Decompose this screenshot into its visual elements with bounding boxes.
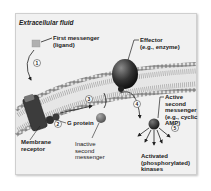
active-leader [158,97,164,118]
step1-arrow [27,50,34,80]
svg-text:2: 2 [57,121,60,127]
ligand-shape [32,40,40,47]
label-membrane-receptor: Membrane receptor [21,139,51,152]
effector-leader [128,40,139,60]
diagram-title: Extracellular fluid [19,19,74,26]
label-active-second-messenger: Active second messenger (e.g., cyclic AM… [165,94,197,127]
label-first-messenger: First messenger (ligand) [53,35,99,48]
ligand-leader [41,38,52,42]
inactive-second-messenger-shape [96,113,106,123]
label-effector: Effector (e.g., enzyme) [140,37,180,50]
svg-text:1: 1 [36,60,39,66]
active-second-messenger-shape [149,119,160,130]
svg-text:4: 4 [136,101,139,107]
svg-text:3: 3 [88,96,91,102]
kinase-arrows [138,128,170,145]
label-activated-kinases: Activated (phosphorylated) kinases [141,153,190,173]
effector-subunit [118,86,124,92]
effector-shape [112,59,138,89]
label-g-protein: G protein [67,120,94,127]
label-inactive-second-messenger: Inactive second messenger [75,141,105,161]
